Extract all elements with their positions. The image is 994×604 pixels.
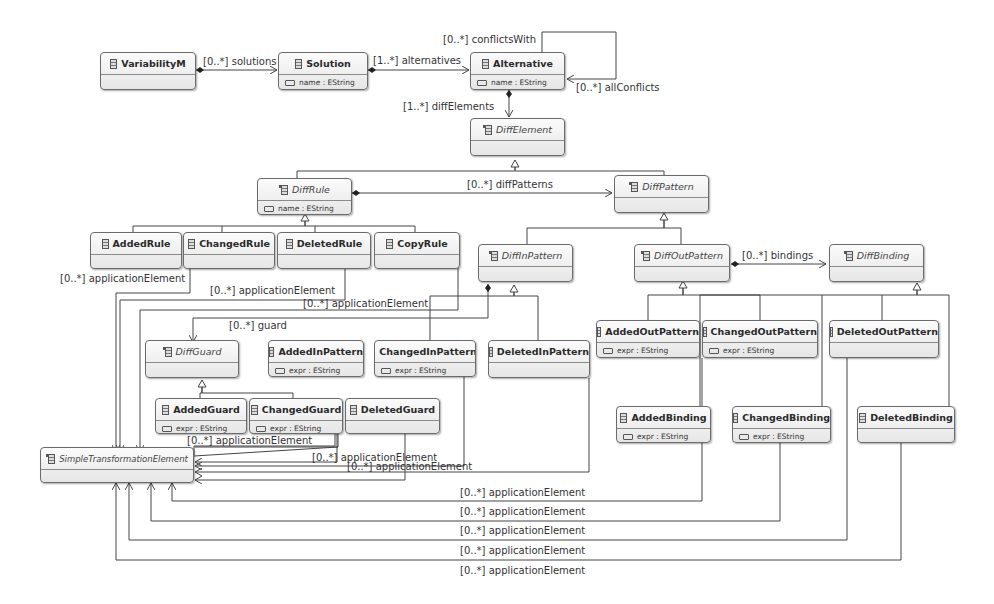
label-application-element: [0..*] applicationElement [60,273,185,284]
class-addedinpattern[interactable]: AddedInPattern expr : EString [268,340,364,377]
class-name: SimpleTransformationElement [59,454,188,464]
class-diffelement[interactable]: DiffElement [470,118,565,156]
attribute-icon [477,80,487,86]
class-icon [830,327,833,337]
class-name: DiffInPattern [502,250,562,261]
class-deletedrule[interactable]: DeletedRule [277,232,371,269]
label-diff-patterns: [0..*] diffPatterns [467,179,553,190]
class-name: DeletedInPattern [497,346,589,357]
class-icon [386,239,393,249]
class-diffbinding[interactable]: DiffBinding [829,244,924,282]
class-simpletransformationelement[interactable]: SimpleTransformationElement [40,447,194,483]
attribute: expr : EString [723,346,774,355]
class-icon [597,327,601,337]
class-addedbinding[interactable]: AddedBinding expr : EString [616,406,711,443]
class-diffpattern[interactable]: DiffPattern [614,175,709,213]
class-variabilitym[interactable]: VariabilityM [100,52,196,90]
class-name: DeletedOutPattern [837,326,938,337]
attribute-icon [739,434,749,440]
class-addedguard[interactable]: AddedGuard expr : EString [155,398,247,434]
attribute: expr : EString [289,366,340,375]
class-icon [620,413,627,423]
abstract-class-icon [163,347,172,357]
class-deletedguard[interactable]: DeletedGuard [345,398,440,434]
label-application-element: [0..*] applicationElement [303,298,428,309]
class-solution[interactable]: Solution name : EString [278,52,368,90]
class-name: ChangedOutPattern [711,326,817,337]
class-icon [482,59,489,69]
class-name: Alternative [493,58,553,69]
class-name: AddedBinding [631,412,706,423]
class-icon [374,347,375,357]
attribute-icon [275,368,285,374]
label-all-conflicts: [0..*] allConflicts [576,82,660,93]
class-icon [251,405,258,415]
class-name: VariabilityM [121,58,185,69]
class-addedoutpattern[interactable]: AddedOutPattern expr : EString [596,320,700,358]
abstract-class-icon [629,182,638,192]
abstract-class-icon [489,251,498,261]
class-name: AddedRule [113,238,171,249]
abstract-class-icon [279,185,288,195]
class-icon [703,327,707,337]
class-name: DiffElement [496,124,552,135]
abstract-class-icon [641,251,650,261]
label-alternatives: [1..*] alternatives [373,55,461,66]
abstract-class-icon [844,251,853,261]
label-application-element: [0..*] applicationElement [460,525,585,536]
attribute: expr : EString [395,366,446,375]
class-name: AddedGuard [173,404,240,415]
class-icon [859,413,866,423]
class-changedguard[interactable]: ChangedGuard expr : EString [249,398,343,434]
class-changedrule[interactable]: ChangedRule [183,232,275,269]
attribute: expr : EString [270,424,321,433]
abstract-class-icon [483,125,492,135]
label-application-element: [0..*] applicationElement [347,461,472,472]
class-deletedbinding[interactable]: DeletedBinding [857,406,955,443]
class-diffguard[interactable]: DiffGuard [145,340,239,378]
attribute-icon [256,426,266,432]
class-copyrule[interactable]: CopyRule [374,232,460,269]
class-deletedoutpattern[interactable]: DeletedOutPattern [829,320,939,358]
class-alternative[interactable]: Alternative name : EString [470,52,565,90]
attribute-icon [264,206,274,212]
attribute: name : EString [299,78,355,87]
class-icon [110,59,117,69]
class-icon [489,347,493,357]
class-name: DeletedGuard [361,404,435,415]
label-application-element: [0..*] applicationElement [210,285,335,296]
label-diff-elements: [1..*] diffElements [403,101,494,112]
attribute-icon [162,426,172,432]
label-application-element: [0..*] applicationElement [460,545,585,556]
class-icon [162,405,169,415]
class-name: ChangedGuard [262,404,341,415]
class-diffinpattern[interactable]: DiffInPattern [478,244,573,282]
class-changedinpattern[interactable]: ChangedInPattern expr : EString [374,340,476,377]
class-name: ChangedBinding [742,412,830,423]
attribute: name : EString [278,204,334,213]
class-name: DiffGuard [176,346,222,357]
class-deletedinpattern[interactable]: DeletedInPattern [488,340,590,378]
class-changedbinding[interactable]: ChangedBinding expr : EString [732,406,831,443]
attribute-icon [603,348,613,354]
attribute: name : EString [491,78,547,87]
class-diffrule[interactable]: DiffRule name : EString [257,178,352,215]
class-diffoutpattern[interactable]: DiffOutPattern [634,244,730,282]
attribute: expr : EString [176,424,227,433]
class-name: AddedInPattern [278,346,363,357]
class-diagram: VariabilityM Solution name : EString Alt… [0,0,994,604]
attribute: expr : EString [617,346,668,355]
class-icon [269,347,274,357]
label-conflicts-with: [0..*] conflictsWith [443,34,536,45]
class-name: DiffRule [292,184,330,195]
class-name: DiffBinding [857,250,910,261]
class-name: DeletedRule [297,238,363,249]
class-addedrule[interactable]: AddedRule [90,232,182,269]
attribute-icon [381,368,391,374]
class-name: CopyRule [397,238,447,249]
class-name: DeletedBinding [870,412,953,423]
class-icon [102,239,109,249]
class-changedoutpattern[interactable]: ChangedOutPattern expr : EString [702,320,818,358]
class-icon [350,405,357,415]
class-icon [733,413,738,423]
